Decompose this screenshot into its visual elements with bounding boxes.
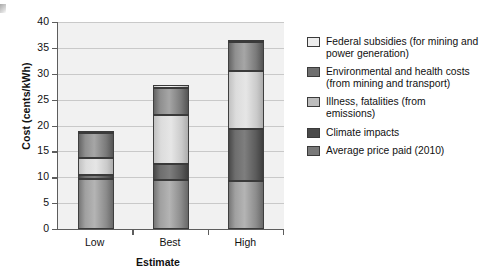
y-tick-mark — [52, 177, 57, 178]
x-tick-label-best: Best — [130, 236, 210, 248]
y-tick-label: 25 — [19, 93, 49, 105]
segment-outline — [153, 86, 189, 87]
y-tick-mark — [52, 22, 57, 23]
segment-outline — [228, 130, 264, 180]
segment-average-price-paid — [153, 180, 189, 229]
segment-federal-subsidies — [228, 40, 264, 42]
legend-item: Illness, fatalities (fromemissions) — [307, 96, 489, 119]
x-tick-mark — [132, 230, 133, 235]
y-tick-label: 35 — [19, 41, 49, 53]
y-tick-label: 30 — [19, 67, 49, 79]
y-tick-mark — [52, 126, 57, 127]
segment-illness-fatalities — [228, 71, 264, 129]
segment-outline — [78, 134, 114, 156]
segment-outline — [153, 165, 189, 179]
segment-environmental-health — [153, 88, 189, 115]
segment-outline — [228, 43, 264, 69]
legend-label: Illness, fatalities (fromemissions) — [326, 96, 426, 119]
plot-area — [57, 22, 284, 229]
y-tick-mark — [52, 100, 57, 101]
y-tick-mark — [52, 229, 57, 230]
y-tick-mark — [52, 74, 57, 75]
segment-average-price-paid — [228, 181, 264, 229]
scan-artifact — [0, 4, 6, 13]
x-tick-mark — [208, 230, 209, 235]
segment-outline — [153, 116, 189, 163]
bar-high — [228, 22, 264, 229]
chart-legend: Federal subsidies (for mining andpower g… — [307, 36, 489, 164]
segment-average-price-paid — [78, 179, 114, 229]
segment-outline — [78, 180, 114, 228]
legend-label: Average price paid (2010) — [326, 145, 444, 157]
legend-item: Climate impacts — [307, 127, 489, 139]
legend-item: Environmental and health costs(from mini… — [307, 66, 489, 89]
legend-label: Federal subsidies (for mining andpower g… — [326, 36, 478, 59]
segment-federal-subsidies — [78, 131, 114, 133]
x-tick-mark — [283, 230, 284, 235]
y-tick-mark — [52, 203, 57, 204]
y-tick-label: 10 — [19, 170, 49, 182]
y-tick-label: 0 — [19, 222, 49, 234]
x-axis-title: Estimate — [33, 256, 283, 268]
legend-swatch-environmental-health — [307, 67, 320, 77]
legend-label: Environmental and health costs(from mini… — [326, 66, 470, 89]
y-tick-label: 40 — [19, 15, 49, 27]
bar-low — [78, 22, 114, 229]
bar-best — [153, 22, 189, 229]
segment-outline — [78, 159, 114, 175]
legend-item: Average price paid (2010) — [307, 145, 489, 157]
segment-outline — [228, 72, 264, 128]
legend-swatch-illness-fatalities — [307, 97, 320, 107]
chart-figure: Cost (cents/kWh) 0510152025303540 LowBes… — [0, 0, 491, 274]
legend-swatch-average-price-paid — [307, 146, 320, 156]
segment-federal-subsidies — [153, 85, 189, 88]
legend-label: Climate impacts — [326, 127, 399, 139]
segment-outline — [153, 181, 189, 228]
x-tick-label-low: Low — [55, 236, 135, 248]
segment-climate-impacts — [78, 175, 114, 179]
segment-illness-fatalities — [78, 158, 114, 176]
segment-outline — [228, 182, 264, 228]
legend-swatch-climate-impacts — [307, 128, 320, 138]
segment-climate-impacts — [153, 164, 189, 180]
x-axis-line — [57, 229, 284, 230]
legend-item: Federal subsidies (for mining andpower g… — [307, 36, 489, 59]
segment-outline — [78, 176, 114, 178]
y-tick-label: 20 — [19, 119, 49, 131]
legend-swatch-federal-subsidies — [307, 37, 320, 47]
segment-illness-fatalities — [153, 115, 189, 164]
y-tick-label: 5 — [19, 196, 49, 208]
x-tick-label-high: High — [205, 236, 285, 248]
segment-environmental-health — [228, 42, 264, 70]
y-tick-mark — [52, 48, 57, 49]
y-tick-mark — [52, 151, 57, 152]
segment-outline — [153, 89, 189, 114]
segment-environmental-health — [78, 133, 114, 157]
y-tick-label: 15 — [19, 144, 49, 156]
segment-climate-impacts — [228, 129, 264, 181]
